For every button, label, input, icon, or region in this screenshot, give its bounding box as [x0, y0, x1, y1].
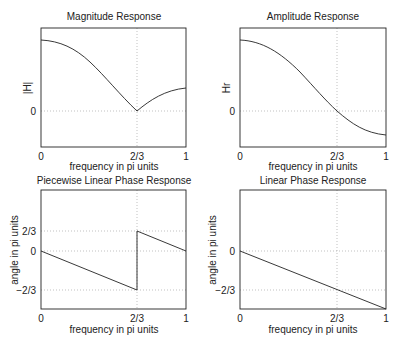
x-tick-label: 2/3	[330, 313, 344, 324]
y-tick-label: −2/3	[215, 285, 235, 296]
plot-title: Amplitude Response	[267, 11, 360, 22]
x-axis-label: frequency in pi units	[70, 161, 159, 172]
figure: Magnitude Response 0 0 2/3 1 frequency i…	[0, 0, 398, 347]
x-axis-label: frequency in pi units	[269, 324, 358, 335]
y-tick-label: 2/3	[22, 226, 36, 237]
magnitude-curve	[41, 40, 186, 111]
phase-curve	[240, 251, 386, 309]
x-tick-label: 1	[383, 151, 389, 162]
y-tick-label: −2/3	[16, 285, 36, 296]
x-tick-label: 0	[38, 151, 44, 162]
amplitude-curve	[240, 40, 386, 135]
plot-frame	[240, 190, 386, 309]
piecewise-phase-plot: Piecewise Linear Phase Response 2/3 0 −2…	[9, 175, 192, 335]
plot-title: Linear Phase Response	[260, 175, 367, 186]
x-tick-label: 0	[237, 313, 243, 324]
y-axis-label: Hr	[221, 82, 232, 93]
y-axis-label: |H|	[22, 82, 33, 94]
plot-frame	[41, 190, 186, 309]
plot-title: Piecewise Linear Phase Response	[37, 175, 192, 186]
y-axis-label: angle in pi units	[207, 215, 218, 285]
x-axis-label: frequency in pi units	[70, 324, 159, 335]
y-tick-label: 0	[30, 106, 36, 117]
phase-curve	[41, 231, 186, 290]
y-tick-label: 0	[229, 246, 235, 257]
y-axis-label: angle in pi units	[9, 215, 20, 285]
x-tick-label: 0	[237, 151, 243, 162]
magnitude-response-plot: Magnitude Response 0 0 2/3 1 frequency i…	[22, 11, 189, 172]
plot-frame	[41, 28, 186, 147]
x-tick-label: 1	[383, 313, 389, 324]
y-tick-label: 0	[229, 106, 235, 117]
x-tick-label: 0	[38, 313, 44, 324]
amplitude-response-plot: Amplitude Response 0 0 2/3 1 frequency i…	[221, 11, 389, 172]
x-tick-label: 2/3	[130, 313, 144, 324]
y-tick-label: 0	[30, 246, 36, 257]
linear-phase-plot: Linear Phase Response 0 −2/3 0 2/3 1 fre…	[207, 175, 389, 335]
x-axis-label: frequency in pi units	[269, 161, 358, 172]
plot-title: Magnitude Response	[67, 11, 162, 22]
x-tick-label: 1	[183, 313, 189, 324]
x-tick-label: 1	[183, 151, 189, 162]
